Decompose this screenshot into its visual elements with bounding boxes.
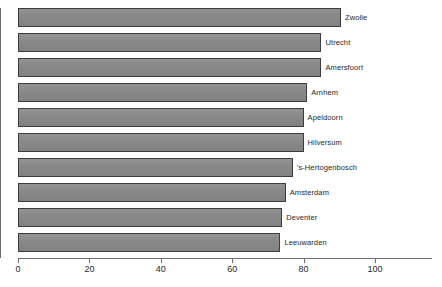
bar-label: Arnhem — [311, 89, 338, 97]
bar-row: Hilversum — [18, 133, 432, 152]
bar — [18, 58, 321, 77]
bar-label: Amersfoort — [325, 64, 363, 72]
x-tick-label: 100 — [367, 265, 382, 274]
bar-label: 's-Hertogenbosch — [297, 164, 357, 172]
bar — [18, 133, 304, 152]
x-tick — [375, 259, 376, 263]
y-axis-line — [0, 8, 1, 258]
bar-label: Zwolle — [345, 14, 367, 22]
x-tick-label: 20 — [84, 265, 94, 274]
x-tick-label: 40 — [156, 265, 166, 274]
bar-row: Apeldoorn — [18, 108, 432, 127]
x-tick-label: 80 — [299, 265, 309, 274]
bar-row: Amersfoort — [18, 58, 432, 77]
bar-row: Leeuwarden — [18, 233, 432, 252]
bar-label: Leeuwarden — [284, 239, 326, 247]
bar-row: Zwolle — [18, 8, 432, 27]
bar — [18, 183, 286, 202]
bar-label: Hilversum — [308, 139, 342, 147]
bar — [18, 83, 307, 102]
bar-chart: ZwolleUtrechtAmersfoortArnhemApeldoornHi… — [0, 0, 442, 287]
bar-row: Arnhem — [18, 83, 432, 102]
bar-row: 's-Hertogenbosch — [18, 158, 432, 177]
x-tick-label: 0 — [15, 265, 20, 274]
bar — [18, 233, 280, 252]
bar-label: Utrecht — [325, 39, 350, 47]
x-tick — [18, 259, 19, 263]
x-tick-label: 60 — [227, 265, 237, 274]
x-tick — [304, 259, 305, 263]
bar-row: Amsterdam — [18, 183, 432, 202]
x-tick — [89, 259, 90, 263]
bar-label: Deventer — [286, 214, 317, 222]
bar-row: Utrecht — [18, 33, 432, 52]
x-tick — [161, 259, 162, 263]
bar — [18, 158, 293, 177]
plot-area: ZwolleUtrechtAmersfoortArnhemApeldoornHi… — [18, 8, 432, 258]
bar-label: Apeldoorn — [308, 114, 343, 122]
x-axis-line — [18, 258, 432, 259]
bar-row: Deventer — [18, 208, 432, 227]
bar — [18, 108, 304, 127]
bar — [18, 208, 282, 227]
bar — [18, 8, 341, 27]
x-tick — [232, 259, 233, 263]
bar — [18, 33, 321, 52]
bar-label: Amsterdam — [290, 189, 329, 197]
